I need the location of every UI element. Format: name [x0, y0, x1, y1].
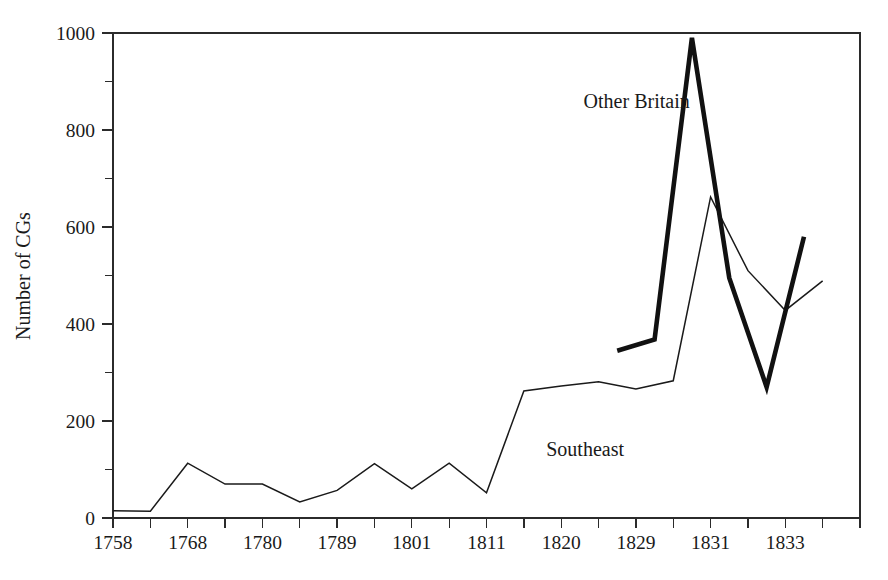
y-tick-label: 0 — [85, 508, 95, 529]
chart-figure: Number of CGs 02004006008001000 17581768… — [0, 0, 888, 580]
x-tick-label: 1758 — [94, 532, 133, 553]
plot-frame — [113, 33, 860, 518]
x-tick-label: 1831 — [691, 532, 730, 553]
series-label-southeast: Southeast — [546, 438, 624, 460]
y-tick-label: 1000 — [56, 23, 95, 44]
y-tick-label: 200 — [66, 411, 95, 432]
line-chart-canvas: Number of CGs 02004006008001000 17581768… — [0, 0, 888, 580]
x-axis-tick-marks — [113, 518, 860, 528]
y-tick-label: 800 — [66, 120, 95, 141]
x-tick-label: 1780 — [243, 532, 282, 553]
series-label-other-britain: Other Britain — [584, 90, 690, 112]
y-axis-tick-labels: 02004006008001000 — [56, 23, 95, 529]
y-tick-label: 400 — [66, 314, 95, 335]
x-tick-label: 1811 — [467, 532, 505, 553]
x-tick-label: 1789 — [318, 532, 357, 553]
series-annotations: SoutheastOther Britain — [546, 90, 689, 460]
series-line-southeast — [113, 197, 823, 511]
y-tick-label: 600 — [66, 217, 95, 238]
x-tick-label: 1833 — [766, 532, 805, 553]
x-tick-label: 1768 — [168, 532, 207, 553]
y-axis-title: Number of CGs — [12, 212, 34, 340]
x-tick-label: 1801 — [392, 532, 431, 553]
x-tick-label: 1820 — [542, 532, 581, 553]
x-tick-label: 1829 — [616, 532, 655, 553]
data-series-group — [113, 38, 823, 511]
y-axis-tick-marks — [102, 33, 113, 518]
x-axis-tick-labels: 1758176817801789180118111820182918311833 — [94, 532, 805, 553]
